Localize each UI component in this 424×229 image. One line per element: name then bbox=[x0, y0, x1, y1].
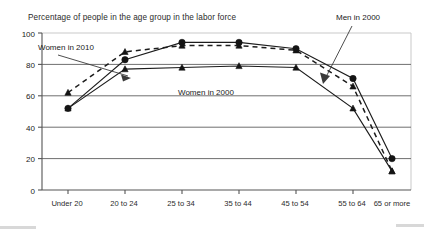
series-women-2000 bbox=[65, 63, 395, 174]
plot-frame bbox=[42, 33, 411, 190]
x-tick-20-to-24: 20 to 24 bbox=[110, 199, 137, 208]
data-point-marker bbox=[122, 56, 128, 62]
data-point-marker bbox=[65, 105, 71, 111]
x-tick-under-20: Under 20 bbox=[51, 199, 82, 208]
data-point-marker bbox=[389, 168, 395, 174]
x-tick-55-to-64: 55 to 64 bbox=[338, 199, 365, 208]
series-women-2010 bbox=[65, 42, 395, 174]
y-tick-0: 0 bbox=[31, 187, 36, 196]
y-tick-60: 60 bbox=[26, 92, 35, 101]
x-tick-35-to-44: 35 to 44 bbox=[224, 199, 251, 208]
y-tick-100: 100 bbox=[22, 30, 36, 39]
annotation-men-2000: Men in 2000 bbox=[320, 13, 381, 84]
data-point-marker bbox=[350, 75, 356, 81]
x-axis: Under 20 20 to 24 25 to 34 35 to 44 45 t… bbox=[42, 190, 411, 208]
chart-title: Percentage of people in the age group in… bbox=[28, 13, 237, 22]
y-axis: 100 80 60 40 20 0 bbox=[22, 30, 42, 196]
annotation-women-2010: Women in 2010 bbox=[38, 43, 131, 82]
x-tick-65-or-more: 65 or more bbox=[374, 199, 411, 208]
y-tick-40: 40 bbox=[26, 124, 35, 133]
data-point-marker bbox=[350, 105, 356, 111]
chart-container: Percentage of people in the age group in… bbox=[0, 0, 424, 229]
line-chart: Percentage of people in the age group in… bbox=[0, 0, 424, 229]
x-tick-45-to-54: 45 to 54 bbox=[281, 199, 308, 208]
annotation-label-women-2000: Women in 2000 bbox=[178, 88, 234, 97]
data-point-marker bbox=[389, 155, 395, 161]
y-tick-80: 80 bbox=[26, 61, 35, 70]
series-men-2000 bbox=[65, 39, 395, 162]
x-tick-25-to-34: 25 to 34 bbox=[167, 199, 194, 208]
annotation-label-women-2010: Women in 2010 bbox=[38, 43, 94, 52]
scan-artifacts bbox=[0, 224, 424, 229]
annotation-label-men-2000: Men in 2000 bbox=[336, 13, 381, 22]
annotation-women-2000: Women in 2000 bbox=[178, 88, 234, 97]
y-tick-20: 20 bbox=[26, 155, 35, 164]
